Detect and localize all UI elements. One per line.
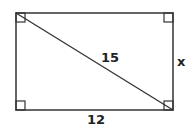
rectangle-diagram: 15 12 x	[0, 0, 194, 130]
right-angle-mark-top-right	[164, 13, 173, 22]
bottom-side-label: 12	[87, 112, 105, 127]
diagonal-line	[16, 13, 173, 110]
diagonal-label: 15	[101, 50, 119, 65]
right-side-label: x	[177, 54, 186, 69]
right-angle-mark-bottom-left	[16, 101, 25, 110]
